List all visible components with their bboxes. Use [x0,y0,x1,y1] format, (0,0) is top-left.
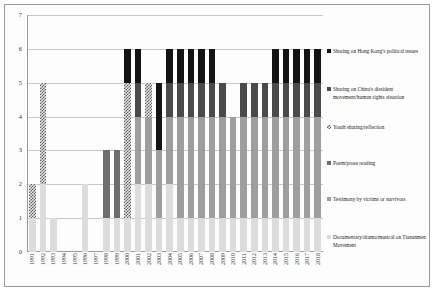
bar-segment[interactable] [219,83,226,117]
bar-column[interactable] [240,83,247,252]
bar-segment[interactable] [262,83,269,117]
bar-segment[interactable] [262,218,269,252]
bar-segment[interactable] [188,49,195,83]
bar-segment[interactable] [304,117,311,219]
bar-segment[interactable] [209,117,216,219]
bar-segment[interactable] [230,218,237,252]
bar-column[interactable] [283,49,290,252]
bar-segment[interactable] [135,117,142,185]
bar-segment[interactable] [209,49,216,83]
bar-segment[interactable] [283,49,290,83]
bar-segment[interactable] [166,184,173,252]
bar-segment[interactable] [145,184,152,252]
bar-segment[interactable] [114,218,121,252]
bar-segment[interactable] [198,49,205,83]
bar-segment[interactable] [40,184,47,252]
legend-item[interactable]: Poem/prose reading [327,159,429,167]
bar-column[interactable] [314,49,321,252]
bar-segment[interactable] [209,83,216,117]
bar-column[interactable] [272,49,279,252]
bar-column[interactable] [304,49,311,252]
bar-segment[interactable] [230,117,237,219]
bar-segment[interactable] [240,117,247,219]
bar-segment[interactable] [272,218,279,252]
bar-segment[interactable] [293,117,300,219]
bar-column[interactable] [145,83,152,252]
bar-segment[interactable] [272,49,279,83]
bar-segment[interactable] [198,83,205,117]
bar-segment[interactable] [198,117,205,219]
bar-segment[interactable] [40,83,47,185]
bar-segment[interactable] [166,83,173,117]
bar-segment[interactable] [240,83,247,117]
bar-segment[interactable] [156,150,163,218]
bar-segment[interactable] [124,218,131,252]
bar-segment[interactable] [145,83,152,117]
bar-segment[interactable] [304,218,311,252]
bar-column[interactable] [156,83,163,252]
bar-segment[interactable] [103,218,110,252]
bar-segment[interactable] [135,49,142,83]
bar-segment[interactable] [82,184,89,252]
bar-segment[interactable] [135,184,142,252]
bar-column[interactable] [40,83,47,252]
bar-segment[interactable] [219,117,226,219]
bar-segment[interactable] [314,218,321,252]
bar-column[interactable] [29,184,36,252]
bar-segment[interactable] [29,184,36,218]
bar-segment[interactable] [156,218,163,252]
legend-item[interactable]: Sharing on Hong Kong's political issues [327,47,429,55]
bar-segment[interactable] [293,83,300,117]
bar-segment[interactable] [188,83,195,117]
bar-column[interactable] [262,83,269,252]
bar-segment[interactable] [240,218,247,252]
bar-column[interactable] [251,83,258,252]
bar-column[interactable] [114,150,121,252]
bar-segment[interactable] [209,218,216,252]
bar-segment[interactable] [188,218,195,252]
bar-segment[interactable] [251,83,258,117]
bar-segment[interactable] [124,49,131,83]
legend-item[interactable]: Testimony by victims or survivors [327,195,429,203]
bar-column[interactable] [219,83,226,252]
bar-segment[interactable] [283,218,290,252]
legend-item[interactable]: Sharing on China's dissident movement/hu… [327,85,429,101]
bar-segment[interactable] [304,49,311,83]
bar-column[interactable] [198,49,205,252]
bar-segment[interactable] [124,83,131,218]
bar-segment[interactable] [262,117,269,219]
bar-segment[interactable] [272,117,279,219]
bar-segment[interactable] [198,218,205,252]
bar-segment[interactable] [283,117,290,219]
bar-column[interactable] [209,49,216,252]
bar-segment[interactable] [177,218,184,252]
bar-column[interactable] [166,49,173,252]
bar-segment[interactable] [177,49,184,83]
bar-column[interactable] [188,49,195,252]
legend-item[interactable]: Documentary/drama/musical on Tiananmen M… [327,233,429,249]
bar-segment[interactable] [251,218,258,252]
bar-column[interactable] [135,49,142,252]
bar-segment[interactable] [293,49,300,83]
bar-segment[interactable] [135,83,142,117]
bar-column[interactable] [50,218,57,252]
bar-segment[interactable] [156,83,163,151]
bar-segment[interactable] [103,150,110,218]
bar-segment[interactable] [251,117,258,219]
bar-segment[interactable] [145,117,152,185]
bar-segment[interactable] [283,83,290,117]
bar-segment[interactable] [50,218,57,252]
bar-segment[interactable] [114,150,121,218]
bar-segment[interactable] [166,117,173,185]
bar-segment[interactable] [29,218,36,252]
bar-segment[interactable] [314,117,321,219]
bar-column[interactable] [124,49,131,252]
legend-item[interactable]: Youth sharing/reflection [327,123,429,131]
bar-segment[interactable] [314,49,321,83]
bar-segment[interactable] [177,117,184,219]
bar-column[interactable] [177,49,184,252]
bar-segment[interactable] [188,117,195,219]
bar-segment[interactable] [272,83,279,117]
bar-column[interactable] [293,49,300,252]
bar-segment[interactable] [219,218,226,252]
